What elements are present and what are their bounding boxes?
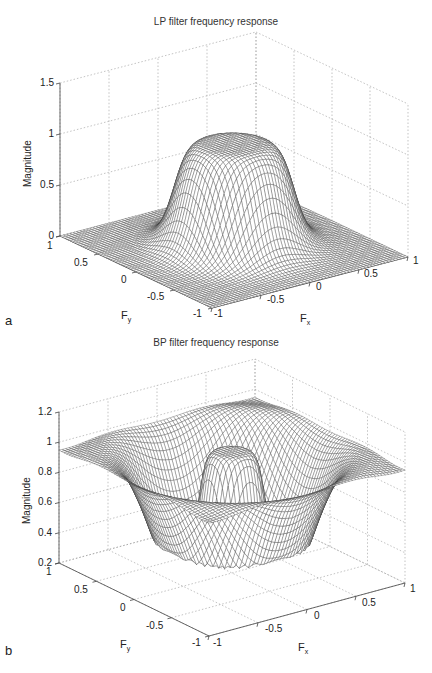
panel-label-a: a xyxy=(5,313,12,328)
fx-axis-label: Fx xyxy=(298,641,308,655)
fx-tick: -1 xyxy=(214,308,223,319)
z-tick: 1.5 xyxy=(24,77,54,88)
fy-tick: -0.5 xyxy=(146,620,163,631)
z-tick: 1 xyxy=(22,436,52,447)
fx-tick: 0 xyxy=(316,281,322,292)
fy-tick: -1 xyxy=(193,308,202,319)
fx-tick: 0.5 xyxy=(362,597,376,608)
z-axis-label: Magnitude xyxy=(21,477,32,524)
fy-tick: 1 xyxy=(47,240,53,251)
fy-tick: -0.5 xyxy=(147,291,164,302)
z-tick: 0.4 xyxy=(22,527,52,538)
z-tick: 1.2 xyxy=(22,406,52,417)
fx-tick: 0.5 xyxy=(364,268,378,279)
z-tick: 1 xyxy=(24,128,54,139)
fy-axis-label: Fy xyxy=(121,309,131,323)
fx-tick: -1 xyxy=(213,637,222,648)
z-axis-label: Magnitude xyxy=(22,140,33,187)
fx-tick: -0.5 xyxy=(265,623,282,634)
lp-filter-panel: LP filter frequency response 1.5 1 0.5 0… xyxy=(0,0,432,330)
lp-surface-plot xyxy=(0,0,432,330)
fy-tick: 1 xyxy=(46,566,52,577)
fx-tick: 1 xyxy=(410,583,416,594)
panel-label-b: b xyxy=(5,643,12,658)
fy-tick: 0 xyxy=(120,602,126,613)
z-tick: 0.8 xyxy=(22,466,52,477)
fy-tick: 0 xyxy=(121,274,127,285)
fy-tick: -1 xyxy=(192,637,201,648)
bp-filter-panel: BP filter frequency response 1.2 1 0.8 0… xyxy=(0,330,432,673)
fx-axis-label: Fx xyxy=(300,312,310,326)
bp-surface-plot xyxy=(0,330,432,673)
fx-tick: 1 xyxy=(413,255,419,266)
fy-axis-label: Fy xyxy=(120,638,130,652)
fx-tick: 0 xyxy=(314,610,320,621)
fy-tick: 0.5 xyxy=(74,584,88,595)
fx-tick: -0.5 xyxy=(267,294,284,305)
fy-tick: 0.5 xyxy=(74,257,88,268)
